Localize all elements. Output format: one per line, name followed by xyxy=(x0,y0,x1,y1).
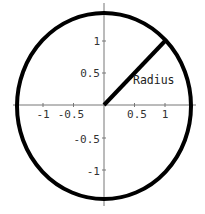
circle-radius-plot: -1 -0.5 0.5 1 1 0.5 -0.5 -1 Radius xyxy=(0,0,205,214)
y-tick-label: -1 xyxy=(87,165,100,178)
x-tick-label: 0.5 xyxy=(127,108,147,121)
y-tick-label: -0.5 xyxy=(74,133,101,146)
y-tick-label: 0.5 xyxy=(80,67,100,80)
y-tick-label: 1 xyxy=(93,35,100,48)
x-tick-label: 1 xyxy=(162,108,169,121)
radius-annotation: Radius xyxy=(133,73,175,87)
x-tick-label: -1 xyxy=(36,108,49,121)
x-tick-label: -0.5 xyxy=(58,108,85,121)
